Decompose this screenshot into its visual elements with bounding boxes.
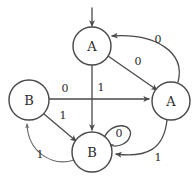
edge-b-left-to-b-bottom: 1 <box>44 109 76 141</box>
edge-a-top-to-b-bottom: 1 <box>92 65 105 130</box>
edge-curve <box>27 124 74 162</box>
node-b-left[interactable]: B <box>9 80 49 120</box>
node-label-a-top: A <box>86 39 97 54</box>
edge-label-b-bottom-to-b-left: 1 <box>37 148 44 161</box>
node-b-bottom[interactable]: B <box>72 132 112 172</box>
node-a-right[interactable]: A <box>152 82 190 120</box>
edge-label-a-top-to-b-bottom: 1 <box>98 81 105 94</box>
node-a-top[interactable]: A <box>73 27 111 65</box>
edge-label-a-right-to-a-top: 0 <box>155 33 162 46</box>
state-diagram-canvas: 0 0 0 1 1 1 1 <box>0 0 195 176</box>
edge-b-bottom-to-b-left: 1 <box>27 124 74 162</box>
node-label-b-left: B <box>24 93 34 108</box>
node-label-b-bottom: B <box>87 145 97 160</box>
edge-label-b-left-to-b-bottom: 1 <box>60 109 67 122</box>
edge-a-right-to-a-top: 0 <box>112 33 179 82</box>
edge-curve <box>116 120 167 155</box>
edge-a-top-to-a-right: 0 <box>108 55 157 90</box>
edge-label-b-bottom-self: 0 <box>116 127 123 140</box>
edge-line <box>108 56 157 90</box>
state-diagram-svg: 0 0 0 1 1 1 1 <box>0 0 195 176</box>
node-label-a-right: A <box>165 94 176 109</box>
edge-label-a-top-to-a-right: 0 <box>135 55 142 68</box>
edge-label-b-left-to-a-right: 0 <box>62 82 69 95</box>
edge-curve <box>112 36 179 82</box>
edge-label-a-right-to-b-bottom: 1 <box>155 151 162 164</box>
